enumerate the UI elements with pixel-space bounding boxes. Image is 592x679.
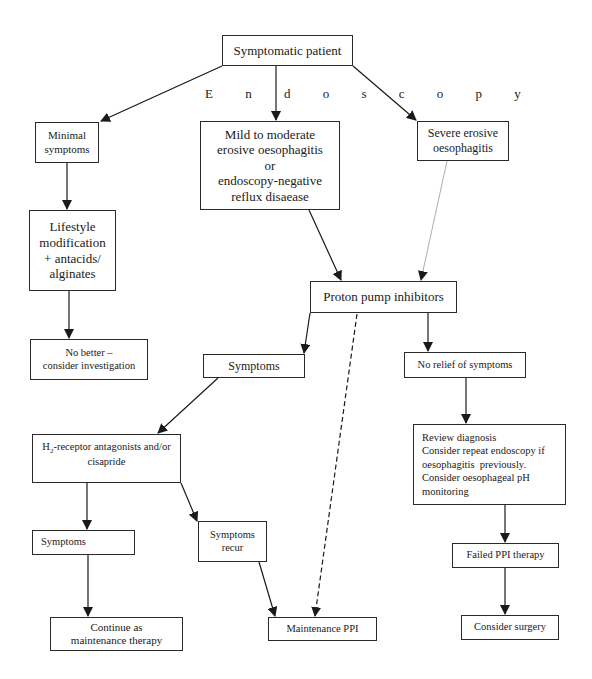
node-label: No relief of symptoms [418, 359, 513, 372]
node-proton-pump-inhibitors: Proton pump inhibitors [310, 281, 457, 313]
node-label: reflux disaease [231, 189, 309, 205]
edge-ppi-to-maintenance-dashed [315, 314, 357, 616]
node-minimal-symptoms: Minimal symptoms [35, 122, 99, 163]
node-label: recur [222, 542, 244, 555]
edge-recur-to-maintenance [259, 562, 275, 616]
edge-symptomatic-to-minimal [101, 66, 222, 121]
node-consider-surgery: Consider surgery [461, 615, 559, 640]
node-symptoms-left: Symptoms [32, 530, 135, 555]
edge-ppi-to-symptoms [304, 313, 310, 353]
node-label: Mild to moderate [225, 127, 315, 143]
node-label: Failed PPI therapy [466, 549, 544, 562]
node-label: alginates [49, 266, 95, 282]
node-label: Consider repeat endoscopy if [422, 444, 545, 457]
node-label: No better – [65, 347, 112, 360]
node-label: cisapride [88, 456, 126, 469]
node-symptoms-mid: Symptoms [203, 354, 305, 378]
edge-symptoms-to-h2 [158, 378, 218, 433]
node-label: Maintenance PPI [286, 623, 358, 636]
node-label: modification [39, 235, 105, 251]
node-label: Symptoms [210, 529, 255, 542]
edge-mild-to-ppi [309, 210, 341, 280]
h2-line1: -receptor antagonists and/or [53, 441, 170, 452]
node-label: Symptoms [228, 359, 279, 374]
node-review-diagnosis: Review diagnosis Consider repeat endosco… [413, 424, 566, 505]
node-label: Consider surgery [474, 621, 546, 634]
node-label: symptoms [44, 143, 89, 156]
node-label: oesophagitis [433, 141, 493, 156]
node-no-better: No better – consider investigation [30, 339, 148, 380]
node-no-relief: No relief of symptoms [404, 352, 526, 378]
node-label: monitoring [422, 485, 469, 498]
node-label: Proton pump inhibitors [323, 289, 444, 305]
edge-h2-to-recur [181, 483, 197, 521]
node-label: H2-receptor antagonists and/or [42, 441, 170, 456]
node-label: Lifestyle [49, 219, 95, 235]
node-label: + antacids/ [44, 251, 101, 267]
h2-prefix: H [42, 441, 50, 452]
node-label: Continue as [90, 621, 142, 634]
edge-severe-to-ppi [421, 161, 447, 280]
node-lifestyle: Lifestyle modification + antacids/ algin… [29, 210, 116, 291]
node-label: Consider oesophageal pH [422, 471, 530, 484]
node-label: endoscopy-negative [218, 173, 322, 189]
node-label: or [265, 158, 276, 174]
node-symptomatic-patient: Symptomatic patient [222, 35, 353, 66]
node-label: consider investigation [43, 360, 135, 373]
node-label: oesophagitis previously. [422, 458, 526, 471]
node-continue-maintenance: Continue as maintenance therapy [50, 617, 183, 651]
node-label: erosive oesophagitis [217, 142, 323, 158]
node-severe-erosive: Severe erosive oesophagitis [417, 121, 509, 161]
node-label: Review diagnosis [422, 431, 496, 444]
node-label: Symptomatic patient [234, 43, 342, 59]
node-label: Symptoms [41, 536, 86, 549]
node-symptoms-recur: Symptoms recur [198, 521, 267, 562]
node-label: Severe erosive [428, 126, 498, 141]
endoscopy-label: E n d o s c o p y [205, 86, 535, 102]
node-h2-receptor: H2-receptor antagonists and/or cisapride [32, 434, 181, 483]
node-mild-moderate: Mild to moderate erosive oesophagitis or… [200, 121, 340, 210]
node-label: Minimal [48, 129, 86, 142]
node-label: maintenance therapy [71, 634, 162, 647]
node-maintenance-ppi: Maintenance PPI [268, 617, 377, 641]
node-failed-ppi: Failed PPI therapy [452, 543, 559, 568]
flowchart: E n d o s c o p y Symptomatic patient Mi… [0, 0, 592, 679]
